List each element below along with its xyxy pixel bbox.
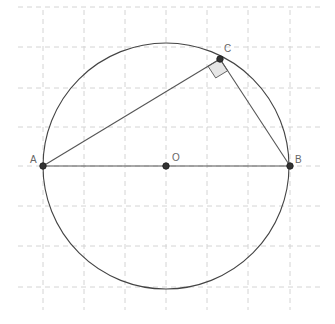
point-b[interactable]: [287, 163, 293, 169]
geometry-canvas: A B C O: [0, 0, 335, 324]
point-c[interactable]: [217, 56, 223, 62]
point-o[interactable]: [163, 163, 169, 169]
segment-bc: [220, 59, 290, 166]
point-a[interactable]: [40, 163, 46, 169]
label-a: A: [30, 154, 37, 165]
label-c: C: [224, 43, 231, 54]
label-o: O: [172, 152, 180, 163]
segment-ac: [43, 59, 220, 166]
grid: [18, 7, 322, 310]
label-b: B: [295, 154, 302, 165]
